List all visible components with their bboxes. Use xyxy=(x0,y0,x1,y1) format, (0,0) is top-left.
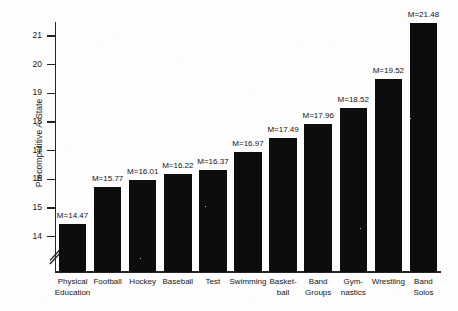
bar xyxy=(59,224,87,272)
y-axis-tick-label: 16 xyxy=(20,174,42,183)
category-label-line: nastics xyxy=(332,288,375,299)
bar-slot: M=16.22 xyxy=(164,14,192,272)
y-axis-tick-label: 15 xyxy=(20,203,42,212)
y-axis-tick-label: 20 xyxy=(20,60,42,69)
bar xyxy=(199,170,227,272)
bar-value-label: M=16.01 xyxy=(127,168,158,176)
y-axis-tick-label: 17 xyxy=(20,146,42,155)
bar-value-label: M=16.97 xyxy=(232,140,263,148)
bar xyxy=(234,152,262,272)
y-axis-tick-label: 18 xyxy=(20,117,42,126)
bar xyxy=(269,138,297,272)
y-axis-tick-label: 14 xyxy=(20,232,42,241)
bar-slot: M=17.96 xyxy=(304,14,332,272)
bar-value-label: M=16.22 xyxy=(162,162,193,170)
y-axis-tick-label: 19 xyxy=(20,88,42,97)
bar-slot: M=14.47 xyxy=(59,14,87,272)
bar xyxy=(375,79,403,272)
y-axis-tick-label: 21 xyxy=(20,31,42,40)
bar xyxy=(94,187,122,272)
bar-slot: M=16.37 xyxy=(199,14,227,272)
bar-slot: M=16.01 xyxy=(129,14,157,272)
bar-slot: M=19.52 xyxy=(375,14,403,272)
plot-area: M=14.47M=15.77M=16.01M=16.22M=16.37M=16.… xyxy=(55,14,441,272)
bar-slot: M=21.48 xyxy=(410,14,438,272)
category-label-line: Education xyxy=(51,288,94,299)
category-label-line: Solos xyxy=(402,288,445,299)
bar xyxy=(129,180,157,272)
bar xyxy=(304,124,332,272)
category-label-line: Band xyxy=(402,277,445,288)
bar-slot: M=18.52 xyxy=(340,14,368,272)
bar-value-label: M=17.96 xyxy=(302,112,333,120)
bar-slot: M=16.97 xyxy=(234,14,262,272)
x-axis-category-labels: PhysicalEducationFootballHockeyBaseballT… xyxy=(55,277,441,309)
bar-slot: M=15.77 xyxy=(94,14,122,272)
bar-value-label: M=21.48 xyxy=(408,11,439,19)
bar-value-label: M=19.52 xyxy=(373,67,404,75)
bar xyxy=(340,108,368,272)
bar-slot: M=17.49 xyxy=(269,14,297,272)
bar-value-label: M=17.49 xyxy=(267,126,298,134)
bar xyxy=(410,23,438,272)
bar-value-label: M=14.47 xyxy=(57,212,88,220)
bar-value-label: M=16.37 xyxy=(197,158,228,166)
bar-value-label: M=15.77 xyxy=(92,175,123,183)
bar xyxy=(164,174,192,272)
x-axis-category-label: BandSolos xyxy=(402,277,445,298)
y-axis-title: Precompetitive A-State xyxy=(34,43,44,243)
scan-speck xyxy=(46,300,47,301)
bar-chart: Precompetitive A-State 1415161718192021 … xyxy=(0,0,458,311)
bar-value-label: M=18.52 xyxy=(338,96,369,104)
